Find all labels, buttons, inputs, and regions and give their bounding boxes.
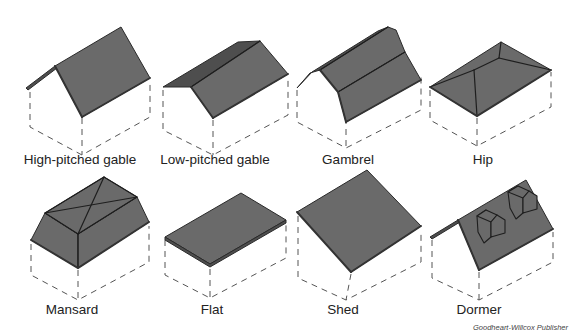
publisher-credit: Goodheart-Willcox Publisher <box>473 323 568 332</box>
dormer-drawing <box>430 180 553 300</box>
shed-drawing <box>297 170 421 300</box>
flat-drawing <box>165 193 286 298</box>
label-high-pitched-gable: High-pitched gable <box>24 152 137 167</box>
roof-types-diagram <box>0 0 578 334</box>
gambrel-drawing <box>297 27 421 148</box>
label-gambrel: Gambrel <box>322 152 374 167</box>
label-mansard: Mansard <box>46 302 99 317</box>
label-flat: Flat <box>201 302 224 317</box>
high-pitched-gable-drawing <box>26 27 150 155</box>
label-dormer: Dormer <box>456 302 501 317</box>
label-low-pitched-gable: Low-pitched gable <box>160 152 270 167</box>
hip-drawing <box>430 42 551 146</box>
label-shed: Shed <box>327 302 359 317</box>
mansard-drawing <box>31 177 149 300</box>
label-hip: Hip <box>473 152 493 167</box>
low-pitched-gable-drawing <box>163 41 288 155</box>
